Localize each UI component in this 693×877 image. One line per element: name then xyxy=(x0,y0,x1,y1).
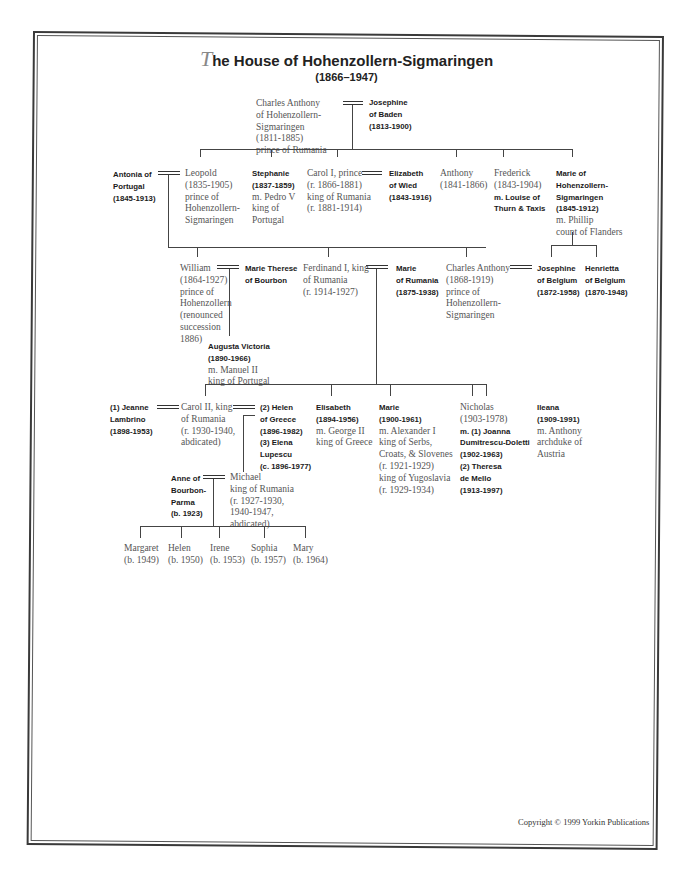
copyright-notice: Copyright © 1999 Yorkin Publications xyxy=(518,817,649,827)
title-dropcap: T xyxy=(200,46,212,71)
person-anne-bourbon-parma: Anne ofBourbon-Parma(b. 1923) xyxy=(171,473,206,520)
person-henrietta-belgium: Henriettaof Belgium(1870-1948) xyxy=(585,263,627,298)
child-margaret: Margaret(b. 1949) xyxy=(124,543,159,567)
person-elizabeth-wied: Elizabethof Wied(1843-1916) xyxy=(389,168,431,203)
child-sophia: Sophia(b. 1957) xyxy=(251,543,286,567)
sibling-line xyxy=(205,384,487,385)
person-helen-elena: (2) Helenof Greece(1896-1982)(3) ElenaLu… xyxy=(260,402,311,473)
person-josephine-belgium: Josephineof Belgium(1872-1958) xyxy=(537,263,579,298)
person-marie-hohenzollern: Marie ofHohenzollern-Sigmaringen(1845-19… xyxy=(556,168,623,239)
person-frederick: Frederick(1843-1904)m. Louise ofThurn & … xyxy=(494,168,545,215)
person-anthony: Anthony(1841-1866) xyxy=(440,168,488,192)
person-carol-ii: Carol II, kingof Rumania(r. 1930-1940,ab… xyxy=(181,402,235,449)
sibling-line xyxy=(140,526,305,527)
person-marie-1900: Marie(1900-1961)m. Alexander Iking of Se… xyxy=(379,402,453,496)
marriage-line xyxy=(343,101,363,105)
title-text: he House of Hohenzollern-Sigmaringen xyxy=(212,52,493,69)
person-leopold: Leopold(1835-1905)prince ofHohenzollern-… xyxy=(185,168,240,227)
child-irene: Irene(b. 1953) xyxy=(210,543,245,567)
person-elisabeth: Elisabeth(1894-1956)m. George IIking of … xyxy=(316,402,372,449)
child-mary: Mary(b. 1964) xyxy=(293,543,328,567)
person-stephanie: Stephanie(1837-1859)m. Pedro Vking ofPor… xyxy=(252,168,295,227)
child-helen: Helen(b. 1950) xyxy=(168,543,203,567)
chart-title: The House of Hohenzollern-Sigmaringen xyxy=(0,46,693,72)
marriage-line xyxy=(217,265,239,269)
person-marie-therese: Marie Thereseof Bourbon xyxy=(245,263,297,287)
person-nicholas: Nicholas(1903-1978)m. (1) JoannaDumitres… xyxy=(460,402,530,496)
marriage-line xyxy=(510,265,532,269)
marriage-line xyxy=(366,265,388,269)
person-augusta-victoria: Augusta Victoria(1890-1966)m. Manuel IIk… xyxy=(208,341,270,388)
marriage-line xyxy=(157,405,179,409)
person-william: William(1864-1927)prince ofHohenzollern(… xyxy=(180,263,232,346)
marriage-line xyxy=(362,171,382,175)
person-michael: Michaelking of Rumania(r. 1927-1930,1940… xyxy=(230,472,294,531)
descent-line xyxy=(352,105,353,149)
person-ileana: Ileana(1909-1991)m. Anthonyarchduke ofAu… xyxy=(537,402,582,461)
marriage-line xyxy=(233,405,255,409)
marriage-line xyxy=(158,171,180,175)
sibling-line xyxy=(200,149,573,150)
chart-subtitle: (1866–1947) xyxy=(0,71,693,83)
person-antonia: Antonia ofPortugal(1845-1913) xyxy=(113,169,155,204)
person-ferdinand-i: Ferdinand I, kingof Rumania(r. 1914-1927… xyxy=(303,263,369,298)
person-carol-i: Carol I, prince(r. 1866-1881)king of Rum… xyxy=(307,168,371,215)
person-josephine-baden: Josephineof Baden(1813-1900) xyxy=(369,97,411,132)
sibling-line xyxy=(168,247,486,248)
person-charles-anthony-jr: Charles Anthony(1868-1919)prince ofHohen… xyxy=(446,263,510,322)
marriage-line xyxy=(203,475,225,479)
person-jeanne-lambrino: (1) JeanneLambrino(1898-1953) xyxy=(110,402,152,437)
person-marie-rumania: Marieof Rumania(1875-1938) xyxy=(396,263,438,298)
